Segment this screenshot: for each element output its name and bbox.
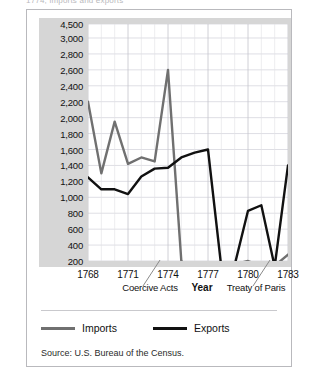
x-axis-tick-labels: 176817711774177717801783	[27, 269, 291, 283]
legend-divider	[41, 310, 277, 311]
x-tick-label: 1777	[197, 269, 218, 280]
legend-item-imports[interactable]: Imports	[41, 320, 117, 336]
figure-card: Pounds sterling (in thousands) 200400600…	[26, 9, 292, 367]
source-note: Source: U.S. Bureau of the Census.	[41, 348, 184, 358]
legend-swatch-imports	[41, 327, 75, 330]
x-axis-title: Year	[191, 282, 212, 293]
plot-svg	[88, 24, 288, 261]
y-tick-label: 1,200	[60, 176, 83, 187]
y-tick-label: 400	[68, 240, 83, 251]
chart-legend: ImportsExports	[41, 320, 281, 336]
y-tick-label: 2,800	[60, 48, 83, 59]
y-tick-label: 3,000	[60, 33, 83, 44]
chart-annotations: Coercive ActsTreaty of ParisYear	[27, 282, 291, 298]
y-tick-label: 4,500	[60, 19, 83, 30]
x-tick-label: 1783	[277, 269, 298, 280]
legend-swatch-exports	[153, 327, 187, 330]
legend-item-exports[interactable]: Exports	[153, 320, 230, 336]
y-tick-label: 2,600	[60, 64, 83, 75]
plot-area	[88, 24, 288, 261]
chart-container: Pounds sterling (in thousands) 200400600…	[27, 10, 291, 306]
y-tick-label: 2,200	[60, 96, 83, 107]
y-tick-label: 1,600	[60, 144, 83, 155]
figure-title-text: 1774, imports and exports	[26, 0, 124, 5]
y-tick-label: 2,000	[60, 112, 83, 123]
x-tick-label: 1768	[77, 269, 98, 280]
figure-title-cropped: 1774, imports and exports	[26, 0, 292, 9]
annotation-label: Treaty of Paris	[227, 282, 285, 293]
legend-label: Imports	[82, 322, 117, 334]
y-tick-label: 800	[68, 208, 83, 219]
annotation-label: Coercive Acts	[122, 282, 177, 293]
x-tick-label: 1780	[237, 269, 258, 280]
x-tick-label: 1771	[117, 269, 138, 280]
y-tick-label: 2,400	[60, 80, 83, 91]
y-tick-label: 200	[68, 256, 83, 267]
y-tick-label: 600	[68, 224, 83, 235]
series-line-exports	[88, 150, 288, 262]
y-tick-label: 1,800	[60, 128, 83, 139]
y-tick-label: 1,000	[60, 192, 83, 203]
y-tick-label: 1,400	[60, 160, 83, 171]
figure-root: 1774, imports and exports Pounds sterlin…	[0, 0, 318, 380]
legend-label: Exports	[194, 322, 230, 334]
y-axis-tick-labels: 2004006008001,0001,2001,4001,6001,8002,0…	[41, 18, 85, 267]
x-tick-label: 1774	[157, 269, 178, 280]
